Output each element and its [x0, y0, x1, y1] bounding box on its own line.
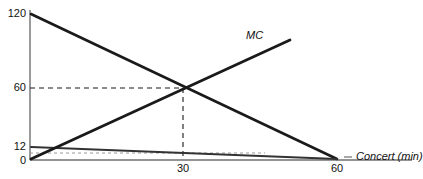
y-tick-label-0: 0 [0, 154, 26, 166]
y-tick-label-120: 120 [0, 7, 26, 19]
x-axis-title: Concert (min) [356, 150, 423, 162]
marginal-benefit-flat-line [31, 147, 337, 159]
x-tick-label-60: 60 [324, 162, 350, 174]
x-tick-label-30: 30 [170, 162, 196, 174]
y-tick-label-12: 12 [0, 140, 26, 152]
marginal-cost-line [31, 40, 290, 159]
marginal-cost-series-label: MC [246, 29, 263, 41]
y-tick-label-60: 60 [0, 81, 26, 93]
